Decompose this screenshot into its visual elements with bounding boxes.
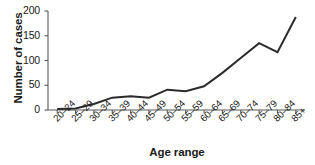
y-tick-label: 100 (6, 54, 40, 66)
line-chart-plot (0, 0, 315, 165)
data-series-line (57, 17, 296, 109)
x-axis-title: Age range (48, 146, 306, 158)
y-tick-label: 150 (6, 29, 40, 41)
y-tick-label: 200 (6, 4, 40, 16)
y-tick-label: 50 (6, 78, 40, 90)
chart-container: Number of cases Age range 050100150200 2… (0, 0, 315, 165)
y-tick-label: 0 (6, 103, 40, 115)
axis-lines (48, 11, 305, 110)
